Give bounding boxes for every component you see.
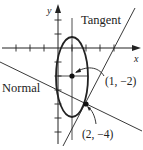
diagram-svg: x y Tangent Normal (1, −2) (2, −4) (0, 0, 143, 150)
tangency-point-label: (2, −4) (82, 128, 114, 141)
tangency-pointer-arrowhead-icon (87, 106, 91, 111)
y-axis-arrow-icon (55, 4, 61, 13)
normal-line (0, 62, 142, 131)
tangency-point (83, 101, 88, 106)
x-axis-label: x (133, 53, 139, 64)
center-point (69, 73, 74, 78)
normal-label: Normal (2, 81, 41, 95)
x-axis-arrow-icon (132, 45, 141, 51)
tangent-label: Tangent (81, 13, 122, 27)
center-point-label: (1, −2) (105, 75, 137, 88)
center-pointer-arrowhead-icon (75, 68, 81, 73)
diagram-canvas: x y Tangent Normal (1, −2) (2, −4) (0, 0, 143, 150)
y-axis-label: y (46, 5, 52, 16)
